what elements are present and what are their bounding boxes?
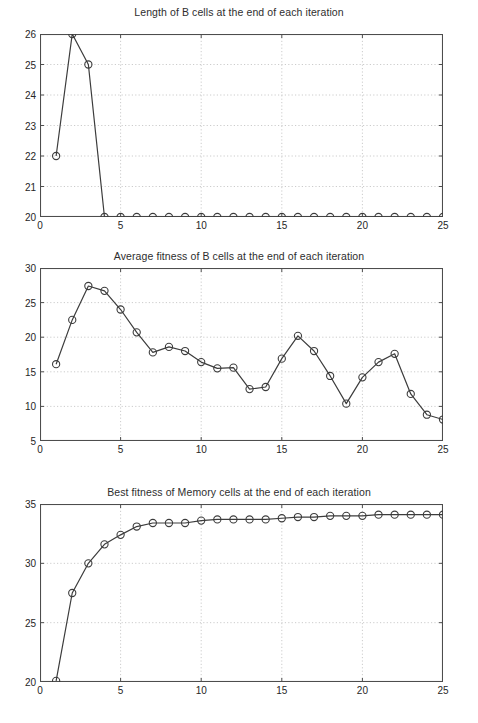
x-tick-label: 15 — [276, 220, 287, 231]
x-tick-label: 0 — [37, 444, 43, 455]
x-tick-label: 5 — [118, 685, 124, 696]
chart-title: Length of B cells at the end of each ite… — [0, 6, 478, 18]
plot-svg — [40, 34, 443, 217]
x-tick-label: 0 — [37, 685, 43, 696]
y-tick-label: 15 — [25, 366, 36, 377]
plot-area — [40, 504, 443, 682]
y-axis-tick-labels: 20212223242526 — [8, 34, 36, 217]
figure-page: Length of B cells at the end of each ite… — [0, 0, 478, 723]
y-axis-tick-labels: 51015202530 — [8, 268, 36, 441]
y-tick-label: 25 — [25, 297, 36, 308]
x-tick-label: 0 — [37, 220, 43, 231]
x-tick-label: 5 — [118, 220, 124, 231]
y-tick-label: 26 — [25, 29, 36, 40]
x-axis-tick-labels: 0510152025 — [40, 220, 443, 236]
x-tick-label: 10 — [196, 444, 207, 455]
x-tick-label: 20 — [357, 444, 368, 455]
x-tick-label: 20 — [357, 220, 368, 231]
x-tick-label: 25 — [437, 685, 448, 696]
plot-svg — [40, 504, 443, 682]
y-tick-label: 20 — [25, 332, 36, 343]
y-tick-label: 24 — [25, 90, 36, 101]
x-tick-label: 25 — [437, 220, 448, 231]
x-axis-tick-labels: 0510152025 — [40, 685, 443, 701]
chart-panel-length-of-b-cells: Length of B cells at the end of each ite… — [0, 0, 478, 248]
x-tick-label: 10 — [196, 685, 207, 696]
x-tick-label: 25 — [437, 444, 448, 455]
y-tick-label: 5 — [30, 436, 36, 447]
y-tick-label: 30 — [25, 263, 36, 274]
y-tick-label: 25 — [25, 617, 36, 628]
x-tick-label: 5 — [118, 444, 124, 455]
chart-panel-best-fitness-of-memory-cells: Best fitness of Memory cells at the end … — [0, 484, 478, 723]
plot-area — [40, 34, 443, 217]
x-tick-label: 10 — [196, 220, 207, 231]
y-tick-label: 20 — [25, 212, 36, 223]
y-tick-label: 23 — [25, 120, 36, 131]
x-tick-label: 20 — [357, 685, 368, 696]
y-tick-label: 21 — [25, 181, 36, 192]
y-tick-label: 35 — [25, 499, 36, 510]
plot-svg — [40, 268, 443, 441]
y-tick-label: 30 — [25, 558, 36, 569]
x-tick-label: 15 — [276, 685, 287, 696]
x-axis-tick-labels: 0510152025 — [40, 444, 443, 460]
y-axis-tick-labels: 20253035 — [8, 504, 36, 682]
chart-title: Best fitness of Memory cells at the end … — [0, 486, 478, 498]
y-tick-label: 22 — [25, 151, 36, 162]
chart-title: Average fitness of B cells at the end of… — [0, 250, 478, 262]
y-tick-label: 20 — [25, 677, 36, 688]
y-tick-label: 10 — [25, 401, 36, 412]
y-tick-label: 25 — [25, 59, 36, 70]
x-tick-label: 15 — [276, 444, 287, 455]
chart-panel-average-fitness-of-b-cells: Average fitness of B cells at the end of… — [0, 248, 478, 484]
plot-area — [40, 268, 443, 441]
